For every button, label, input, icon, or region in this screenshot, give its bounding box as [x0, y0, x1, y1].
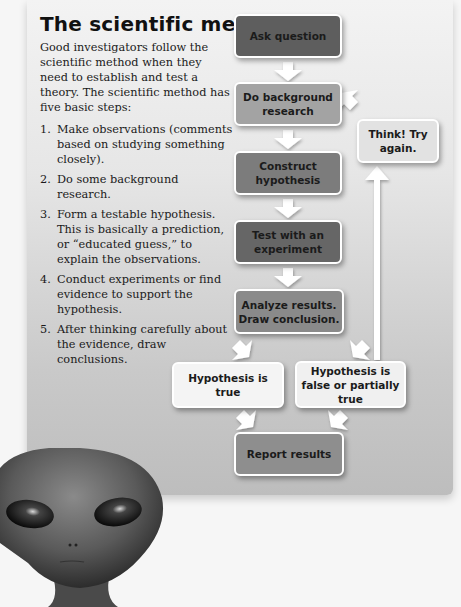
arrow-up-icon [365, 166, 389, 180]
box-hypothesis-true: Hypothesis is true [172, 362, 284, 408]
box-report-results: Report results [234, 432, 344, 476]
arrow-diagonal-icon [328, 410, 348, 430]
box-think-try-again: Think! Try again. [357, 119, 439, 163]
arrow-down-icon [274, 130, 302, 149]
box-construct-hypothesis: Construct hypothesis [234, 151, 342, 195]
box-analyze-results: Analyze results. Draw conclusion. [234, 289, 344, 334]
arrow-diagonal-icon [236, 410, 256, 430]
arrow-down-icon [274, 62, 302, 81]
box-test-experiment: Test with an experiment [234, 220, 342, 264]
arrow-diagonal-icon [350, 340, 370, 360]
arrow-diagonal-icon [232, 340, 252, 360]
alien-illustration [0, 448, 200, 607]
box-ask-question: Ask question [234, 14, 342, 58]
arrow-down-icon [274, 268, 302, 287]
return-line [374, 177, 380, 360]
arrow-down-icon [274, 199, 302, 218]
box-background-research: Do background research [234, 82, 342, 126]
box-hypothesis-false: Hypothesis is false or partially true [295, 361, 406, 408]
